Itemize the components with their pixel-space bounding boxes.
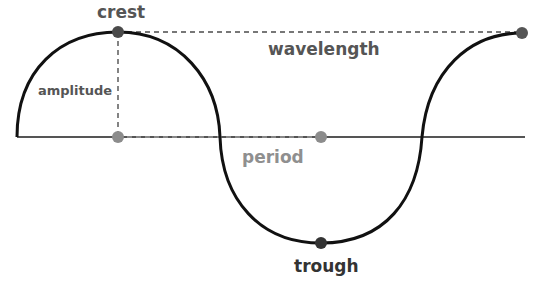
amplitude-label: amplitude [38,83,112,98]
period-label: period [242,147,304,167]
period-dot [315,131,327,143]
wavelength-end-dot [516,27,528,39]
crest-label: crest [97,2,145,22]
amplitude-base-dot [112,131,124,143]
trough-dot [315,237,327,249]
wavelength-label: wavelength [268,39,380,59]
trough-label: trough [294,256,359,276]
crest-dot [112,26,124,38]
